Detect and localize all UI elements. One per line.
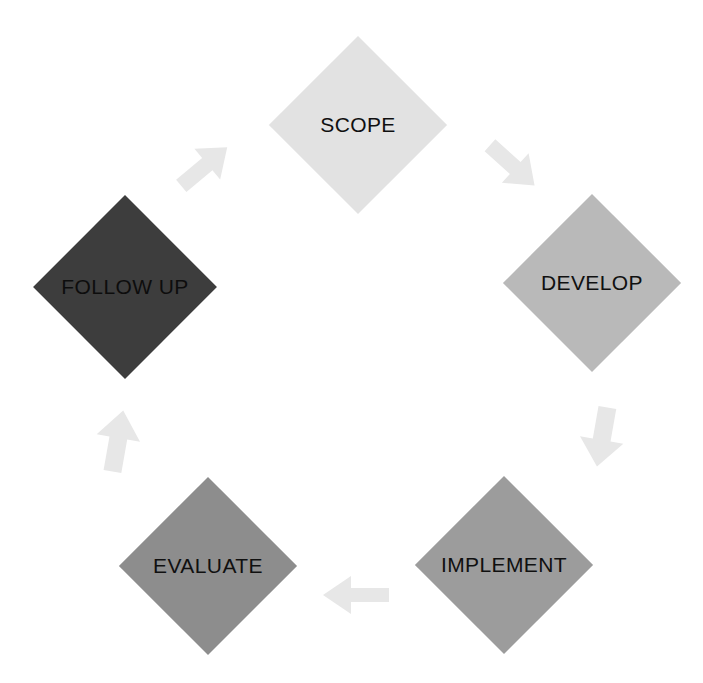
- arrow-shape: [323, 576, 389, 614]
- arrow-shape: [477, 130, 548, 200]
- node-label-follow-up: FOLLOW UP: [61, 275, 188, 299]
- node-label-implement: IMPLEMENT: [441, 553, 567, 577]
- node-label-develop: DEVELOP: [541, 271, 643, 295]
- arrow-shape: [575, 404, 629, 471]
- diagram-canvas: SCOPE DEVELOP IMPLEMENT EVALUATE FOLLOW …: [0, 0, 703, 683]
- node-scope[interactable]: SCOPE: [295, 62, 421, 188]
- arrow-shape: [168, 132, 240, 201]
- arrow-shape: [91, 407, 145, 476]
- arrow-evaluate-to-follow-up: [87, 404, 149, 476]
- arrow-follow-up-to-scope: [166, 128, 244, 205]
- arrow-develop-to-implement: [571, 403, 633, 473]
- arrow-scope-to-develop: [474, 127, 552, 204]
- node-develop[interactable]: DEVELOP: [529, 220, 655, 346]
- node-follow-up[interactable]: FOLLOW UP: [60, 222, 190, 352]
- node-label-evaluate: EVALUATE: [153, 554, 263, 578]
- node-label-scope: SCOPE: [320, 113, 396, 137]
- node-implement[interactable]: IMPLEMENT: [441, 502, 567, 628]
- arrow-implement-to-evaluate: [321, 573, 389, 617]
- node-evaluate[interactable]: EVALUATE: [145, 503, 271, 629]
